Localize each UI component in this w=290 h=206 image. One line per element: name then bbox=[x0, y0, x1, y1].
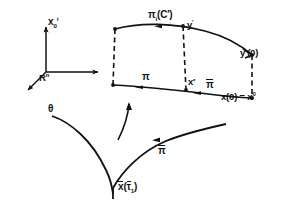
y-prime-label: y′ bbox=[187, 20, 193, 30]
theta-curve bbox=[52, 116, 113, 194]
node-y-prime bbox=[181, 24, 185, 28]
pi-bar-curve-arrow bbox=[152, 138, 160, 143]
pi-bar-right-symbol: π bbox=[158, 146, 165, 156]
x-bar-close-paren: ) bbox=[134, 181, 137, 192]
x-zero-equation: x(0) = x bbox=[221, 91, 252, 102]
axis-vertical-label: x0i bbox=[48, 16, 58, 30]
axis-vertical-label-sup: i bbox=[57, 15, 59, 22]
pi-bar-lower-mid-symbol: π bbox=[206, 80, 213, 90]
y-prime-zero-label: y′(0) bbox=[240, 48, 258, 58]
pi-bar-curve bbox=[113, 124, 226, 188]
pi-c-prime-argument: (C′) bbox=[157, 9, 172, 20]
diagram-canvas bbox=[0, 0, 290, 206]
x-bar-tau-label: x(τ1) bbox=[118, 182, 137, 194]
pi-mid-symbol: π bbox=[142, 71, 149, 82]
theta-label: θ bbox=[48, 104, 53, 114]
axis-origin-label: Rn bbox=[39, 73, 49, 83]
x-zero-label: x(0) = x0 bbox=[221, 92, 255, 102]
mid-dashed-connector bbox=[183, 26, 186, 90]
pi-bar-lower-mid-label: π bbox=[206, 80, 213, 90]
y-prime-mark: ′ bbox=[192, 19, 193, 25]
node-x-prime bbox=[184, 88, 188, 92]
axis-origin-sup: n bbox=[46, 72, 49, 78]
axis-vertical-label-sub: 0 bbox=[53, 22, 56, 29]
node-bottom-left bbox=[111, 83, 115, 87]
left-dashed-connector bbox=[113, 29, 115, 85]
x-bar-base: x bbox=[118, 182, 123, 192]
axis-origin-base: R bbox=[39, 72, 46, 83]
pi-mid-label: π bbox=[142, 72, 149, 82]
pi-bar-right-label: π bbox=[158, 146, 165, 156]
theta-connector-arrow bbox=[126, 102, 132, 110]
x-zero-superscript: 0 bbox=[252, 91, 255, 97]
tau-bar-base: τ bbox=[127, 182, 131, 192]
node-top-left bbox=[113, 27, 117, 31]
x-prime-label: x′ bbox=[188, 77, 195, 87]
pi-c-prime-label: πi(C′) bbox=[148, 10, 172, 22]
